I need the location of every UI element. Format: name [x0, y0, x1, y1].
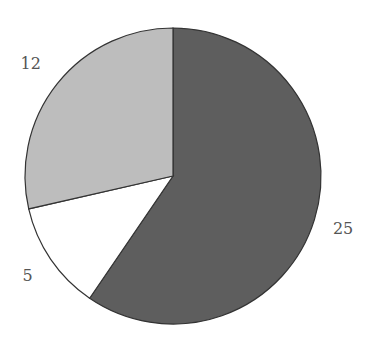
- slice-label-5: 5: [22, 266, 32, 285]
- pie-slices: [25, 28, 321, 324]
- slice-label-25: 25: [333, 219, 353, 238]
- pie-chart: 25512: [0, 0, 371, 341]
- slice-label-12: 12: [21, 54, 41, 73]
